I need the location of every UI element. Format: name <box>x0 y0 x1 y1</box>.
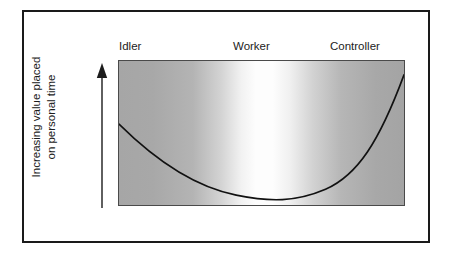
category-label-controller: Controller <box>330 39 380 53</box>
up-arrow-icon <box>95 62 109 208</box>
category-label-worker: Worker <box>233 39 270 53</box>
figure-root: Idler Worker Controller Increasing value… <box>0 0 452 258</box>
plot-area <box>118 60 405 206</box>
y-axis-caption: Increasing value placed on personal time <box>29 42 59 192</box>
y-axis-caption-line-2: on personal time <box>44 42 59 192</box>
y-axis-caption-line-1: Increasing value placed <box>29 42 44 192</box>
value-curve <box>119 61 404 205</box>
category-label-idler: Idler <box>119 39 141 53</box>
